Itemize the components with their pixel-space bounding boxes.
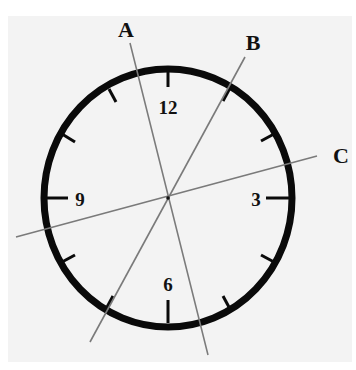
label-a: A <box>118 17 134 42</box>
numeral-3: 3 <box>251 189 261 210</box>
tick-4 <box>261 255 274 262</box>
tick-10 <box>62 134 75 142</box>
label-b: B <box>246 30 261 55</box>
numeral-6: 6 <box>163 274 173 295</box>
numeral-12: 12 <box>159 97 178 118</box>
center-point <box>166 196 170 200</box>
label-c: C <box>333 143 349 168</box>
tick-11 <box>109 89 116 102</box>
clock-diagram: 12 3 9 6 A B C <box>0 0 356 370</box>
tick-5 <box>223 296 230 309</box>
tick-2 <box>261 134 274 141</box>
tick-8 <box>62 255 75 262</box>
numeral-9: 9 <box>75 189 85 210</box>
